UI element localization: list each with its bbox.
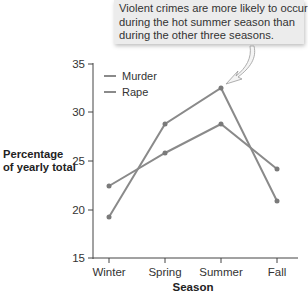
x-axis-label: Season [173,281,214,293]
legend: Murder Rape [104,70,157,98]
xtick-winter: Winter [92,266,125,278]
xtick-summer: Summer [199,266,243,278]
ytick-20: 20 [72,204,85,216]
legend-item-rape: Rape [104,86,148,98]
line-chart: 35 30 25 20 15 Winter Spring Summer Fall… [0,0,308,304]
y-axis: 35 30 25 20 15 [72,58,93,264]
series-rape [107,86,280,220]
ytick-30: 30 [72,106,85,118]
xtick-fall: Fall [268,266,287,278]
svg-text:Murder: Murder [122,70,157,82]
legend-item-murder: Murder [104,70,157,82]
svg-text:Rape: Rape [122,86,148,98]
x-axis: Winter Spring Summer Fall Season [92,258,298,293]
ytick-15: 15 [72,252,85,264]
ytick-35: 35 [72,58,85,70]
ytick-25: 25 [72,155,85,167]
callout-arrow-icon [226,46,255,84]
xtick-spring: Spring [148,266,181,278]
